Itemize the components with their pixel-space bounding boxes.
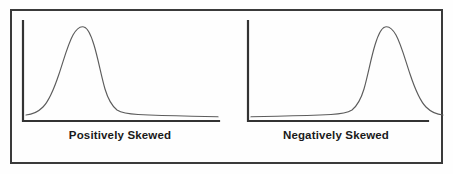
figure-border: Positively Skewed Negatively Skewed <box>10 9 443 164</box>
axis-lines <box>248 21 428 121</box>
caption-positively-skewed: Positively Skewed <box>12 129 228 141</box>
caption-negatively-skewed: Negatively Skewed <box>228 129 444 141</box>
positively-skewed-plot <box>12 11 228 133</box>
panel-negatively-skewed: Negatively Skewed <box>228 11 444 166</box>
positively-skewed-curve <box>26 27 218 117</box>
negatively-skewed-curve <box>251 27 443 117</box>
axis-lines <box>23 21 219 121</box>
negatively-skewed-plot <box>228 11 444 133</box>
panel-positively-skewed: Positively Skewed <box>12 11 228 166</box>
skewness-figure: Positively Skewed Negatively Skewed <box>0 0 453 174</box>
